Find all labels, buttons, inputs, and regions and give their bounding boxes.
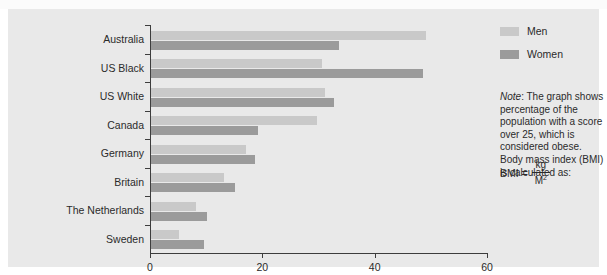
- x-tick: [487, 253, 488, 258]
- x-tick-label: 60: [481, 261, 493, 273]
- bmi-formula-fraction: kg M2: [532, 159, 550, 186]
- bar-us-black-women: [151, 69, 423, 78]
- y-tick: [145, 139, 150, 140]
- chart-figure: 0204060 AustraliaUS BlackUS WhiteCanadaG…: [8, 9, 599, 267]
- bmi-formula-numerator: kg: [533, 159, 550, 172]
- y-tick: [145, 54, 150, 55]
- bar-us-white-men: [151, 88, 325, 97]
- x-tick: [375, 253, 376, 258]
- legend-label-men: Men: [527, 25, 547, 37]
- category-label-the-netherlands: The Netherlands: [66, 204, 144, 216]
- note-lead-word: Note: [500, 91, 521, 102]
- bar-the-netherlands-women: [151, 212, 207, 221]
- bmi-formula-exponent: 2: [543, 174, 547, 181]
- category-label-britain: Britain: [114, 176, 144, 188]
- y-tick: [145, 25, 150, 26]
- category-label-us-white: US White: [100, 90, 144, 102]
- bar-us-white-women: [151, 98, 334, 107]
- y-tick: [145, 111, 150, 112]
- bar-canada-men: [151, 116, 317, 125]
- x-axis-line: [150, 253, 488, 254]
- bar-sweden-women: [151, 240, 204, 249]
- bmi-formula-lhs: BMI =: [500, 167, 528, 179]
- bar-australia-men: [151, 31, 426, 40]
- legend-swatch-men-icon: [500, 27, 519, 36]
- y-tick: [145, 168, 150, 169]
- category-label-us-black: US Black: [101, 62, 144, 74]
- x-tick-label: 40: [369, 261, 381, 273]
- bmi-formula-denominator-base: M: [535, 175, 543, 186]
- y-tick: [145, 225, 150, 226]
- bar-the-netherlands-men: [151, 202, 196, 211]
- bmi-formula-denominator: M2: [532, 172, 550, 187]
- bar-us-black-men: [151, 59, 322, 68]
- category-label-canada: Canada: [107, 119, 144, 131]
- bmi-formula: BMI = kg M2: [500, 159, 550, 186]
- x-tick: [150, 253, 151, 258]
- category-label-germany: Germany: [101, 147, 144, 159]
- legend-swatch-women-icon: [500, 50, 519, 59]
- legend-item-women: Women: [500, 48, 595, 60]
- x-tick-label: 0: [147, 261, 153, 273]
- plot-area: 0204060: [150, 25, 487, 253]
- bar-germany-men: [151, 145, 246, 154]
- bar-germany-women: [151, 155, 255, 164]
- bar-sweden-men: [151, 230, 179, 239]
- y-tick: [145, 82, 150, 83]
- bar-britain-men: [151, 173, 224, 182]
- bar-australia-women: [151, 41, 339, 50]
- bar-britain-women: [151, 183, 235, 192]
- page-top-artifact-strip: [0, 0, 607, 9]
- category-label-sweden: Sweden: [106, 233, 144, 245]
- y-tick: [145, 196, 150, 197]
- legend-item-men: Men: [500, 25, 595, 37]
- x-tick: [262, 253, 263, 258]
- category-label-australia: Australia: [103, 33, 144, 45]
- bar-canada-women: [151, 126, 258, 135]
- chart-legend: Men Women: [500, 25, 595, 71]
- legend-label-women: Women: [527, 48, 563, 60]
- x-tick-label: 20: [256, 261, 268, 273]
